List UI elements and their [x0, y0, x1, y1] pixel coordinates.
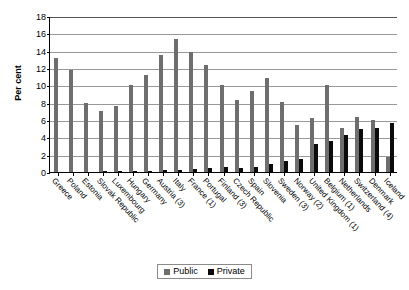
bar-private[interactable] — [163, 170, 167, 172]
bar-group — [50, 17, 65, 172]
bar-private[interactable] — [133, 171, 137, 172]
y-axis-tick-label: 4 — [12, 134, 46, 143]
bar-public[interactable] — [84, 103, 88, 172]
legend-item[interactable]: Private — [208, 267, 245, 276]
y-axis-tick-label: 2 — [12, 152, 46, 161]
y-axis-tick-label: 10 — [12, 82, 46, 91]
x-axis-label-cell: Austria (3) — [155, 175, 170, 253]
bar-group — [261, 17, 276, 172]
bar-private[interactable] — [193, 169, 197, 172]
bar-group — [216, 17, 231, 172]
bar-public[interactable] — [144, 75, 148, 172]
bar-private[interactable] — [178, 170, 182, 172]
bar-group — [171, 17, 186, 172]
x-axis-label-cell: Italy — [170, 175, 185, 253]
x-axis-label-cell: Finland (3) — [215, 175, 230, 253]
bar-group — [367, 17, 382, 172]
bar-private[interactable] — [299, 159, 303, 172]
bar-series-container — [50, 17, 397, 172]
bar-private[interactable] — [329, 141, 333, 172]
x-axis-label-cell: Norway (2) — [291, 175, 306, 253]
y-axis-tick-label: 8 — [12, 100, 46, 109]
bar-public[interactable] — [129, 85, 133, 172]
bar-group — [292, 17, 307, 172]
bar-public[interactable] — [265, 78, 269, 172]
bar-group — [80, 17, 95, 172]
bar-public[interactable] — [69, 70, 73, 172]
y-axis-tick-label: 6 — [12, 117, 46, 126]
bar-group — [186, 17, 201, 172]
x-axis-label-cell: Slovak Republic — [94, 175, 109, 253]
bar-group — [307, 17, 322, 172]
bar-public[interactable] — [235, 100, 239, 172]
bar-public[interactable] — [114, 106, 118, 172]
bar-private[interactable] — [375, 128, 379, 172]
bar-group — [201, 17, 216, 172]
x-axis-label-cell: United Kingdom (1) — [306, 175, 321, 253]
bar-group — [246, 17, 261, 172]
x-axis-label-cell: Germany — [140, 175, 155, 253]
x-axis-label-cell: Slovenia — [261, 175, 276, 253]
y-axis-tick-label: 12 — [12, 65, 46, 74]
bar-group — [231, 17, 246, 172]
bar-group — [276, 17, 291, 172]
x-axis-label-cell: Spain — [246, 175, 261, 253]
legend-label: Private — [217, 267, 245, 276]
y-axis-tick-label: 18 — [12, 13, 46, 22]
y-axis-tick-mark — [47, 173, 50, 174]
bar-group — [156, 17, 171, 172]
bar-public[interactable] — [220, 85, 224, 172]
bar-group — [322, 17, 337, 172]
x-axis-label-cell: Luxembourg — [110, 175, 125, 253]
legend-swatch-icon — [164, 269, 170, 275]
bar-group — [125, 17, 140, 172]
bar-public[interactable] — [54, 58, 58, 172]
bar-public[interactable] — [159, 55, 163, 172]
bar-private[interactable] — [254, 167, 258, 172]
y-axis-tick-label: 0 — [12, 169, 46, 178]
bar-private[interactable] — [359, 129, 363, 172]
x-axis-label-cell: Switzerland (4) — [352, 175, 367, 253]
bar-private[interactable] — [118, 171, 122, 172]
x-axis-label-cell: Czech Republic — [231, 175, 246, 253]
x-axis-tick-label: Iceland — [382, 177, 405, 201]
bar-group — [65, 17, 80, 172]
x-axis-label-cell: Hungary — [125, 175, 140, 253]
bar-private[interactable] — [148, 171, 152, 172]
bar-private[interactable] — [239, 168, 243, 172]
bar-private[interactable] — [344, 135, 348, 172]
x-axis-label-cell: Portugal — [200, 175, 215, 253]
bar-private[interactable] — [284, 161, 288, 172]
bar-private[interactable] — [269, 164, 273, 172]
bar-public[interactable] — [174, 39, 178, 172]
legend-label: Public — [173, 267, 198, 276]
legend-box: PublicPrivate — [157, 264, 252, 279]
bar-private[interactable] — [224, 167, 228, 172]
x-axis-label-cell: Netherlands — [336, 175, 351, 253]
bar-public[interactable] — [204, 65, 208, 172]
x-axis-label-cell: Estonia — [79, 175, 94, 253]
x-axis-label-cell: France (1) — [185, 175, 200, 253]
legend-item[interactable]: Public — [164, 267, 198, 276]
y-axis-tick-label: 14 — [12, 48, 46, 57]
bar-private[interactable] — [390, 123, 394, 172]
x-axis-label-cell: Greece — [49, 175, 64, 253]
bar-public[interactable] — [250, 91, 254, 172]
bar-group — [95, 17, 110, 172]
x-axis-label-cell: Iceland — [382, 175, 397, 253]
legend: PublicPrivate — [0, 264, 409, 279]
x-axis-label-cell: Sweden (3) — [276, 175, 291, 253]
legend-swatch-icon — [208, 269, 214, 275]
bar-group — [337, 17, 352, 172]
x-axis-label-cell: Poland — [64, 175, 79, 253]
bar-private[interactable] — [208, 168, 212, 172]
bar-group — [352, 17, 367, 172]
x-axis-labels: GreecePolandEstoniaSlovak RepublicLuxemb… — [49, 175, 397, 253]
bar-group — [110, 17, 125, 172]
bar-public[interactable] — [189, 52, 193, 172]
x-axis-label-cell: Denmark — [367, 175, 382, 253]
bar-private[interactable] — [314, 144, 318, 172]
bar-private[interactable] — [103, 171, 107, 172]
bar-public[interactable] — [99, 111, 103, 172]
x-axis-label-cell: Belgium (1) — [321, 175, 336, 253]
